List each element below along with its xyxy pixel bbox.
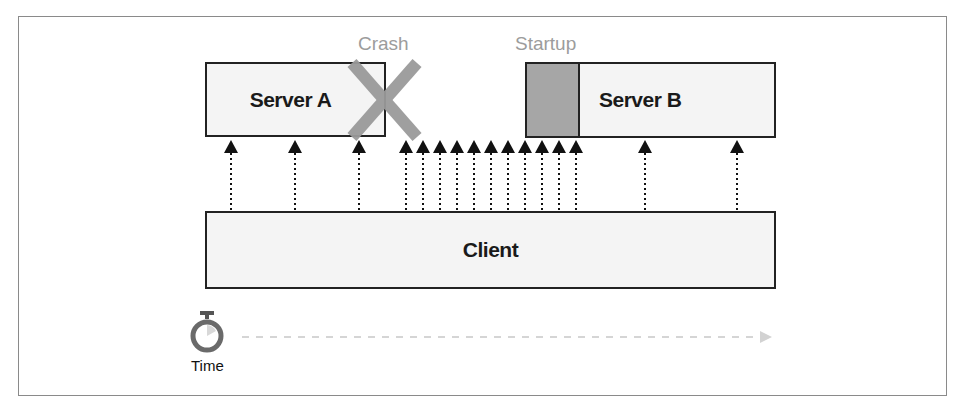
request-arrow — [399, 140, 413, 210]
request-arrow — [535, 140, 549, 210]
time-arrow — [242, 331, 772, 343]
request-arrow — [730, 140, 744, 210]
request-arrow — [569, 140, 583, 210]
request-arrow — [501, 140, 515, 210]
request-arrow — [416, 140, 430, 210]
request-arrows — [224, 140, 744, 210]
request-arrow — [552, 140, 566, 210]
request-arrow — [450, 140, 464, 210]
diagram-overlay — [0, 0, 959, 408]
request-arrow — [288, 140, 302, 210]
request-arrow — [224, 140, 238, 210]
request-arrow — [467, 140, 481, 210]
request-arrow — [518, 140, 532, 210]
request-arrow — [352, 140, 366, 210]
time-label: Time — [191, 357, 224, 374]
stopwatch-icon — [193, 311, 221, 350]
crash-x-icon — [352, 63, 417, 137]
request-arrow — [638, 140, 652, 210]
request-arrow — [433, 140, 447, 210]
request-arrow — [484, 140, 498, 210]
